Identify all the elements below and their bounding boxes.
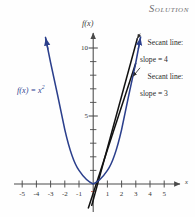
x-tick-label-1: 1 [100,190,114,198]
secant-line-slope-3 [88,63,136,208]
function-equation-exponent: 2 [42,84,45,90]
x-tick-label-neg4: -4 [29,190,43,198]
solution-figure: Solution [0,0,195,217]
function-equation-label: f(x) = x2 [17,84,44,95]
y-axis-label: f(x) [82,19,93,28]
x-tick-label-5: 5 [157,190,171,198]
secant-label-slope-4-line1: Secant line: [148,38,184,47]
secant-label-slope-3-line1: Secant line: [148,72,184,81]
x-axis-label: x [185,178,188,186]
x-tick-label-neg1: -1 [72,190,86,198]
x-tick-label-neg5: -5 [15,190,29,198]
function-equation-text: f(x) = x [17,86,42,95]
x-tick-label-2: 2 [115,190,129,198]
x-tick-label-3: 3 [129,190,143,198]
x-tick-label-4: 4 [143,190,157,198]
x-tick-label-neg2: -2 [58,190,72,198]
x-tick-label-neg3: -3 [44,190,58,198]
y-tick-label-5: 5 [76,112,88,120]
secant-label-slope-3-line2: slope = 3 [140,90,183,99]
secant-label-slope-3: Secant line: slope = 3 [140,64,183,116]
y-tick-label-10: 10 [72,44,88,52]
